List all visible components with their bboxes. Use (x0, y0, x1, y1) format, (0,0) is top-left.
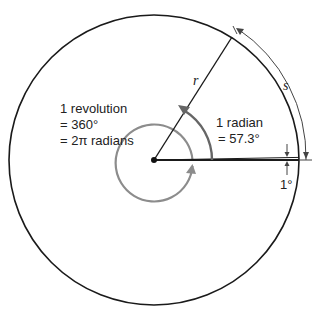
revolution-arrow-icon (186, 164, 196, 174)
radian-diagram: r s 1 revolution = 360° = 2π radians 1 r… (0, 0, 316, 316)
arc-length-label: s (283, 78, 289, 93)
revolution-label-2: = 360° (60, 117, 98, 132)
revolution-label-1: 1 revolution (60, 101, 127, 116)
arc-arrow-bottom-icon (303, 152, 309, 159)
arc-arrow-top-icon (236, 28, 244, 35)
arc-tick-top (233, 26, 237, 34)
degree-label: 1° (280, 177, 292, 192)
radius-label: r (193, 73, 199, 88)
degree-arrowhead-top-icon (285, 152, 290, 157)
degree-arrowhead-bottom-icon (285, 161, 290, 166)
radian-label-2: = 57.3° (218, 131, 260, 146)
center-point (151, 157, 157, 163)
revolution-label-3: = 2π radians (60, 133, 134, 148)
radian-label-1: 1 radian (216, 115, 263, 130)
radian-arc (185, 111, 212, 160)
